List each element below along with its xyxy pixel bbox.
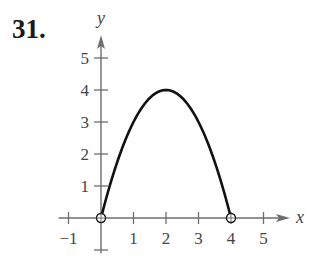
function-graph: −11234512345 x y	[0, 0, 322, 260]
x-tick-label: −1	[59, 229, 77, 248]
axes	[59, 35, 290, 253]
y-tick-label: 5	[81, 49, 90, 68]
y-tick-label: 3	[81, 113, 90, 132]
y-tick-label: 4	[81, 81, 90, 100]
x-tick-label: 4	[227, 229, 236, 248]
y-tick-label: 1	[81, 177, 90, 196]
x-tick-label: 5	[259, 229, 268, 248]
x-tick-label: 1	[129, 229, 138, 248]
x-tick-label: 2	[162, 229, 171, 248]
y-axis-label: y	[95, 8, 105, 28]
y-tick-label: 2	[81, 145, 90, 164]
x-tick-label: 3	[194, 229, 203, 248]
open-circle-icon	[227, 214, 236, 223]
open-circle-icon	[97, 214, 106, 223]
parabola-curve	[101, 90, 231, 218]
x-axis-label: x	[295, 207, 304, 227]
